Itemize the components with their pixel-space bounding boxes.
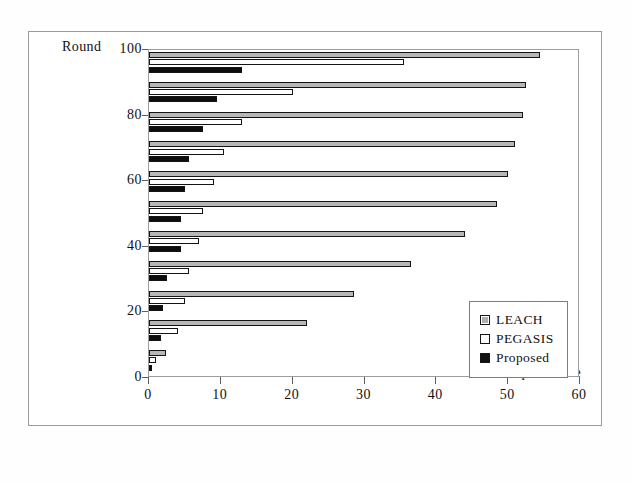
bar-leach — [149, 320, 307, 326]
bar-group — [149, 169, 578, 199]
x-axis-tick — [220, 377, 221, 384]
bar-pegasis — [149, 298, 185, 304]
bar-proposed — [149, 156, 189, 162]
x-axis-labels: 0102030405060 — [148, 387, 579, 407]
x-axis-tick-label: 30 — [356, 387, 371, 403]
x-axis-tick-label: 20 — [284, 387, 299, 403]
legend-label: LEACH — [496, 312, 543, 328]
y-axis-labels: 020406080100 — [89, 49, 142, 377]
x-axis-tick — [148, 377, 149, 384]
bar-group — [149, 110, 578, 140]
legend-item: LEACH — [480, 312, 554, 328]
legend-label: PEGASIS — [496, 331, 554, 347]
bar-group — [149, 229, 578, 259]
x-axis-tick — [507, 377, 508, 384]
x-axis-tick-label: 0 — [144, 387, 152, 403]
bar-proposed — [149, 246, 181, 252]
bar-pegasis — [149, 89, 293, 95]
bar-leach — [149, 171, 508, 177]
legend-item: Proposed — [480, 350, 554, 366]
bar-pegasis — [149, 59, 404, 65]
x-axis-tick — [292, 377, 293, 384]
bar-leach — [149, 201, 497, 207]
legend-swatch-proposed-icon — [480, 353, 490, 363]
bar-leach — [149, 291, 354, 297]
bar-pegasis — [149, 119, 242, 125]
bar-leach — [149, 231, 465, 237]
bar-pegasis — [149, 328, 178, 334]
legend-swatch-leach-icon — [480, 315, 490, 325]
bar-leach — [149, 261, 411, 267]
figure-frame: Round HopDistance 020406080100 010203040… — [28, 31, 602, 426]
bar-pegasis — [149, 268, 189, 274]
bar-pegasis — [149, 357, 156, 363]
bar-pegasis — [149, 149, 224, 155]
x-axis-tick — [435, 377, 436, 384]
bar-proposed — [149, 305, 163, 311]
legend-swatch-pegasis-icon — [480, 334, 490, 344]
bar-leach — [149, 350, 166, 356]
x-axis-tick — [579, 377, 580, 384]
x-axis-tick-label: 40 — [428, 387, 443, 403]
legend-item: PEGASIS — [480, 331, 554, 347]
bar-group — [149, 50, 578, 80]
bar-group — [149, 259, 578, 289]
bar-group — [149, 139, 578, 169]
x-axis-tick-label: 60 — [572, 387, 587, 403]
bar-group — [149, 199, 578, 229]
bar-leach — [149, 141, 515, 147]
x-axis-tick-label: 10 — [212, 387, 227, 403]
x-axis-tick — [364, 377, 365, 384]
y-axis-tick-label: 80 — [127, 107, 142, 123]
x-axis-ticks — [148, 377, 579, 386]
legend: LEACHPEGASISProposed — [469, 301, 568, 378]
bar-leach — [149, 52, 540, 58]
bar-proposed — [149, 365, 152, 371]
bar-proposed — [149, 275, 167, 281]
bar-proposed — [149, 126, 203, 132]
y-axis-tick-label: 60 — [127, 172, 142, 188]
bar-pegasis — [149, 238, 199, 244]
x-axis-tick-label: 50 — [500, 387, 515, 403]
bar-proposed — [149, 335, 161, 341]
legend-label: Proposed — [496, 350, 549, 366]
y-axis-tick-label: 20 — [127, 303, 142, 319]
bar-leach — [149, 82, 526, 88]
y-axis-tick-label: 0 — [135, 369, 143, 385]
bar-proposed — [149, 216, 181, 222]
y-axis-tick-label: 100 — [120, 41, 143, 57]
bar-proposed — [149, 186, 185, 192]
bar-leach — [149, 112, 523, 118]
bar-pegasis — [149, 208, 203, 214]
bar-group — [149, 80, 578, 110]
y-axis-tick-label: 40 — [127, 238, 142, 254]
bar-proposed — [149, 96, 217, 102]
bar-proposed — [149, 67, 242, 73]
bar-pegasis — [149, 179, 214, 185]
